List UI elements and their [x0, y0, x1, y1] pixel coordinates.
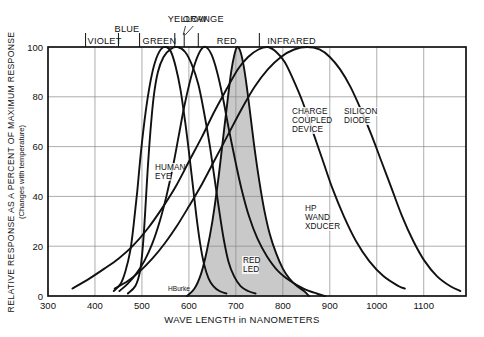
- artist-signature: HBurke: [168, 285, 190, 292]
- chart-figure: VIOLETBLUEGREENYELLOWORANGEREDINFRARED 3…: [0, 0, 484, 337]
- x-tick-600: 600: [181, 300, 197, 311]
- annotation-line: CHARGE: [292, 107, 328, 116]
- annotation-line: XDUCER: [305, 222, 340, 231]
- band-label-green: GREEN: [143, 36, 177, 46]
- band-label-violet: VIOLET: [88, 36, 122, 46]
- annotation-line: HUMAN: [155, 163, 186, 172]
- x-tick-500: 500: [134, 300, 150, 311]
- y-tick-80: 80: [32, 91, 43, 102]
- x-tick-1000: 1000: [366, 300, 387, 311]
- y-axis-subtitle: (Changes with temperature): [17, 124, 26, 219]
- y-tick-20: 20: [32, 241, 43, 252]
- annotation-line: DIODE: [344, 116, 371, 125]
- spectral-response-chart: VIOLETBLUEGREENYELLOWORANGEREDINFRARED 3…: [0, 0, 484, 337]
- x-tick-400: 400: [87, 300, 103, 311]
- annotation-line: RED: [243, 256, 261, 265]
- x-axis-tick-labels: 30040050060070080090010001100: [40, 300, 434, 311]
- annotation-line: COUPLED: [292, 116, 332, 125]
- y-tick-100: 100: [27, 42, 43, 53]
- x-tick-1100: 1100: [414, 300, 434, 311]
- x-tick-800: 800: [275, 300, 291, 311]
- band-label-red: RED: [217, 36, 237, 46]
- annotation-line: DEVICE: [292, 125, 324, 134]
- annotation-line: EYE: [155, 172, 172, 181]
- annotation-line: SILICON: [344, 107, 377, 116]
- annotation-line: WAND: [305, 213, 330, 222]
- y-tick-40: 40: [32, 191, 43, 202]
- annotation-line: LED: [243, 265, 259, 274]
- x-tick-300: 300: [40, 300, 56, 311]
- y-tick-0: 0: [38, 291, 43, 302]
- band-label-orange: ORANGE: [183, 14, 224, 24]
- band-label-blue: BLUE: [115, 24, 140, 34]
- y-axis-title: RELATIVE RESPONSE AS A PERCENT OF MAXIMU…: [6, 32, 16, 313]
- x-tick-700: 700: [228, 300, 244, 311]
- annotation-line: HP: [305, 204, 317, 213]
- y-tick-60: 60: [32, 141, 43, 152]
- x-axis-title: WAVE LENGTH in NANOMETERS: [164, 314, 319, 325]
- annotation-red-led: REDLED: [242, 256, 261, 274]
- band-label-infrared: INFRARED: [267, 36, 316, 46]
- x-tick-900: 900: [322, 300, 338, 311]
